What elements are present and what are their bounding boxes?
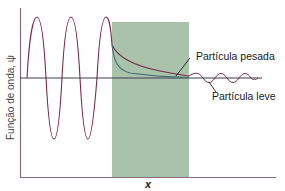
x-axis-label: x: [145, 178, 151, 190]
heavy-particle-label: Partícula pesada: [196, 50, 275, 62]
light-particle-label: Partícula leve: [212, 90, 276, 102]
potential-barrier: [112, 22, 189, 177]
y-axis-label: Função de onda, ψ: [5, 48, 16, 148]
